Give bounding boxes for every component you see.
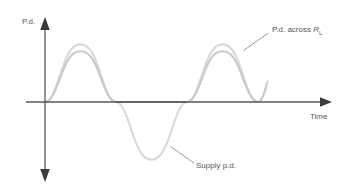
y-axis-label: P.d. [22,18,35,26]
y-axis-arrowhead-up [40,17,50,30]
leader-line-supply [171,147,195,164]
annotation-resistor-subscript: L [319,30,322,36]
figure-container: P.d. Time P.d. across RL Supply p.d. [0,0,352,195]
leader-line-rectified [244,33,269,51]
annotation-supply-pd: Supply p.d. [196,162,236,170]
rectified-pd-curve-hump-2 [187,51,267,102]
x-axis-arrowhead [320,97,332,107]
y-axis-arrowhead-down [40,169,50,182]
rectified-pd-curve-hump-1 [45,51,116,102]
x-axis-label: Time [310,113,327,121]
annotation-pd-across-rl-text: P.d. across [272,25,313,34]
annotation-pd-across-rl: P.d. across RL [272,26,322,36]
